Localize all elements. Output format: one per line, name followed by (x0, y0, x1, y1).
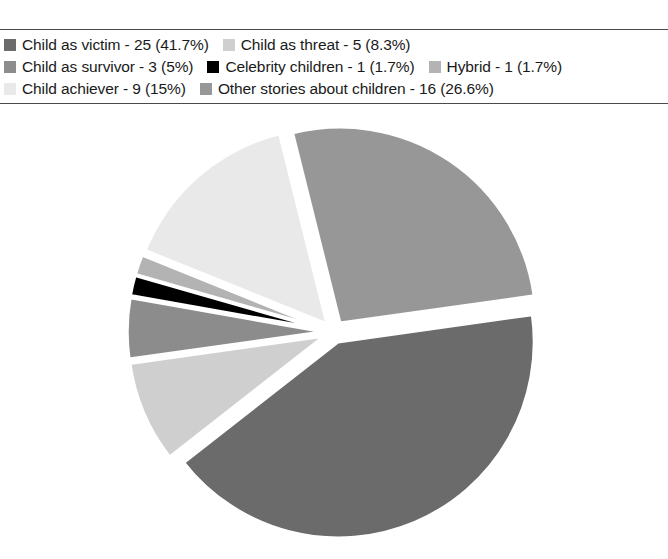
legend-item-label: Celebrity children - 1 (1.7%) (225, 58, 414, 76)
legend-swatch-icon (429, 61, 441, 73)
legend-item[interactable]: Celebrity children - 1 (1.7%) (207, 58, 414, 76)
legend-swatch-icon (4, 39, 16, 51)
chart-legend: Child as victim - 25 (41.7%)Child as thr… (0, 29, 668, 104)
legend-swatch-icon (207, 61, 219, 73)
legend-item[interactable]: Child as survivor - 3 (5%) (4, 58, 193, 76)
legend-item-label: Child as survivor - 3 (5%) (22, 58, 193, 76)
pie-svg (114, 112, 554, 552)
legend-row: Child achiever - 9 (15%)Other stories ab… (0, 78, 668, 100)
legend-row: Child as survivor - 3 (5%)Celebrity chil… (0, 56, 668, 78)
legend-item-label: Child as threat - 5 (8.3%) (241, 36, 411, 54)
legend-swatch-icon (223, 39, 235, 51)
legend-item[interactable]: Hybrid - 1 (1.7%) (429, 58, 562, 76)
legend-item-label: Hybrid - 1 (1.7%) (447, 58, 562, 76)
legend-swatch-icon (200, 83, 212, 95)
legend-row: Child as victim - 25 (41.7%)Child as thr… (0, 34, 668, 56)
pie-slice[interactable] (293, 127, 535, 323)
legend-swatch-icon (4, 83, 16, 95)
pie-chart-figure: Child as victim - 25 (41.7%)Child as thr… (0, 0, 668, 559)
legend-item-label: Other stories about children - 16 (26.6%… (218, 80, 494, 98)
legend-item[interactable]: Child as threat - 5 (8.3%) (223, 36, 411, 54)
legend-item-label: Child achiever - 9 (15%) (22, 80, 186, 98)
legend-item[interactable]: Child achiever - 9 (15%) (4, 80, 186, 98)
legend-swatch-icon (4, 61, 16, 73)
legend-item[interactable]: Other stories about children - 16 (26.6%… (200, 80, 494, 98)
pie-plot-area (0, 112, 668, 559)
legend-item-label: Child as victim - 25 (41.7%) (22, 36, 209, 54)
legend-item[interactable]: Child as victim - 25 (41.7%) (4, 36, 209, 54)
